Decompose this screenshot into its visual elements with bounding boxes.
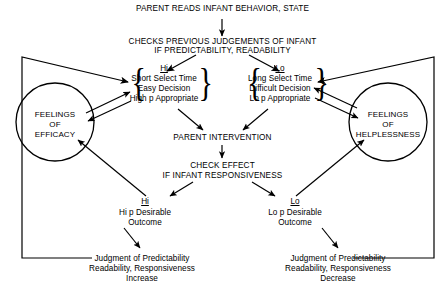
judgment-decrease-line2: Readability, Responsiveness [258, 264, 418, 273]
lo-outcome-line2: Outcome [246, 218, 344, 227]
judgment-increase-line3: Increase [62, 274, 222, 283]
lo-brace-close: } [314, 63, 328, 103]
judgment-increase-line2: Readability, Responsiveness [62, 264, 222, 273]
feedback-loop-right [318, 57, 434, 258]
efficacy-line1: FEELINGS [16, 110, 94, 120]
lo-branch-line3: Lo p Appropriate [244, 94, 316, 103]
lo-branch-line1: Long Select Time [244, 74, 316, 83]
hi-outcome-header: Hi [100, 197, 190, 206]
efficacy-line2: OF [16, 120, 94, 130]
feedback-loop-left [22, 57, 128, 258]
parent-intervention: PARENT INTERVENTION [0, 133, 445, 142]
hi-outcome-line1: Hi p Desirable [96, 208, 194, 217]
hi-branch-header: Hi [129, 64, 199, 73]
arrow-lo-to-intervention [243, 109, 268, 130]
lo-outcome-header: Lo [250, 197, 340, 206]
hi-outcome-line2: Outcome [96, 218, 194, 227]
checks-previous-judgements-line1: CHECKS PREVIOUS JUDGEMENTS OF INFANT [0, 37, 445, 46]
judgment-decrease-line3: Decrease [258, 274, 418, 283]
arrow-checkeffect-to-lo-outcome [252, 182, 275, 196]
helplessness-line2: OF [346, 120, 430, 130]
lo-branch-line2: Difficult Decision [244, 84, 316, 93]
arrow-hi-to-efficacy [88, 101, 131, 121]
arrow-hi-outcome-to-judgment-increase [124, 228, 140, 248]
hi-branch-line2: Easy Decision [129, 84, 199, 93]
hi-branch-line3: High p Appropriate [127, 94, 201, 103]
check-effect-line2: IF INFANT RESPONSIVENESS [0, 171, 445, 180]
diagram-canvas: PARENT READS INFANT BEHAVIOR, STATE CHEC… [0, 0, 445, 295]
check-effect-line1: CHECK EFFECT [0, 161, 445, 170]
hi-branch-line1: Short Select Time [129, 74, 199, 83]
judgment-increase-line1: Judgment of Predictability [62, 254, 222, 263]
page-title: PARENT READS INFANT BEHAVIOR, STATE [0, 4, 445, 13]
arrow-checkeffect-to-hi-outcome [170, 182, 193, 196]
helplessness-line1: FEELINGS [346, 110, 430, 120]
arrow-hi-to-intervention [178, 109, 203, 130]
lo-outcome-line1: Lo p Desirable [246, 208, 344, 217]
lo-branch-header: Lo [245, 64, 315, 73]
arrow-lo-outcome-to-judgment-decrease [322, 228, 338, 248]
checks-previous-judgements-line2: IF PREDICTABILITY, READABILITY [0, 46, 445, 55]
judgment-decrease-line1: Judgment of Predictability [258, 254, 418, 263]
